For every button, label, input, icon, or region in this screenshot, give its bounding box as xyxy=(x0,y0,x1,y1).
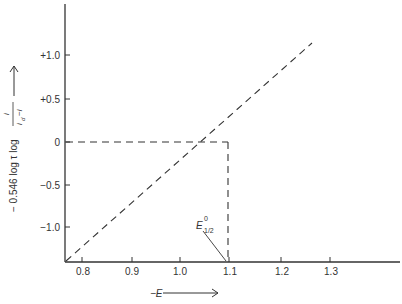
y-axis-title: − 0.546 log τ log i i d −i xyxy=(2,66,26,212)
svg-text:1/2: 1/2 xyxy=(204,227,214,234)
svg-text:i: i xyxy=(2,113,11,115)
y-tick-label: +1.0 xyxy=(40,50,60,61)
x-tick-labels: 0.8 0.9 1.0 1.1 1.2 1.3 xyxy=(76,266,338,277)
svg-text:0: 0 xyxy=(204,215,208,222)
x-axis-arrow-icon xyxy=(163,289,218,297)
fit-line xyxy=(66,43,312,261)
svg-text:−i: −i xyxy=(15,109,24,116)
annotation-pointer xyxy=(203,231,226,261)
y-ticks xyxy=(65,55,70,227)
svg-text:E: E xyxy=(196,220,203,231)
y-tick-labels: +1.0 +0.5 0 −0.5 −1.0 xyxy=(40,50,60,233)
x-tick-label: 1.1 xyxy=(223,266,237,277)
x-tick-label: 1.3 xyxy=(324,266,338,277)
svg-text:i: i xyxy=(15,123,24,125)
y-axis-arrow-icon xyxy=(10,66,18,96)
svg-text:− 0.546 log τ log: − 0.546 log τ log xyxy=(8,139,19,212)
y-tick-label: −0.5 xyxy=(40,180,60,191)
x-tick-label: 1.0 xyxy=(173,266,187,277)
x-axis-title: −E xyxy=(150,288,163,299)
x-tick-label: 0.8 xyxy=(76,266,90,277)
x-ticks xyxy=(82,257,330,262)
x-tick-label: 1.2 xyxy=(275,266,289,277)
y-tick-label: 0 xyxy=(54,137,60,148)
svg-text:d: d xyxy=(20,117,26,121)
y-tick-label: −1.0 xyxy=(40,222,60,233)
annotation-e-half: E 0 1/2 xyxy=(196,215,214,234)
x-tick-label: 0.9 xyxy=(125,266,139,277)
chart: +1.0 +0.5 0 −0.5 −1.0 0.8 0.9 1.0 1.1 1.… xyxy=(0,0,402,304)
y-tick-label: +0.5 xyxy=(40,94,60,105)
